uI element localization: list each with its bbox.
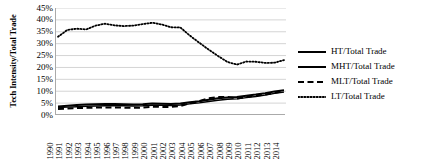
x-axis-tick-labels: 1990199119921993199419951996199719981999… [55, 116, 285, 159]
x-tick-label: 1996 [102, 142, 111, 159]
y-tick-label: 20% [37, 63, 54, 72]
y-tick-label: 15% [37, 75, 54, 84]
y-tick-label: 45% [37, 4, 54, 13]
chart-legend: HT/Total TradeMHT/Total TradeMLT/Total T… [298, 44, 429, 104]
y-tick-label: 40% [37, 15, 54, 24]
x-tick-label: 1993 [74, 142, 83, 159]
x-tick-label: 1999 [130, 142, 139, 159]
legend-swatch-mht [298, 62, 326, 72]
x-tick-label: 2000 [140, 142, 149, 159]
series-line-ht [58, 90, 284, 106]
legend-item-ht[interactable]: HT/Total Trade [298, 44, 429, 59]
x-tick-label: 1995 [93, 142, 102, 159]
x-tick-label: 1998 [121, 142, 130, 159]
x-tick-label: 2007 [206, 142, 215, 159]
y-tick-label: 10% [37, 87, 54, 96]
legend-label: MLT/Total Trade [331, 77, 393, 86]
plot-area [55, 8, 285, 115]
legend-item-mht[interactable]: MHT/Total Trade [298, 59, 429, 74]
x-tick-label: 2011 [243, 142, 252, 159]
legend-item-mlt[interactable]: MLT/Total Trade [298, 74, 429, 89]
x-tick-label: 2013 [262, 142, 271, 159]
legend-label: HT/Total Trade [331, 47, 387, 56]
x-tick-label: 2003 [168, 142, 177, 159]
legend-swatch-lt [298, 92, 326, 102]
x-tick-label: 2012 [253, 142, 262, 159]
x-tick-label: 1994 [83, 142, 92, 159]
x-tick-label: 2008 [215, 142, 224, 159]
legend-swatch-mlt [298, 77, 326, 87]
chart-container: Tech Intensity/Total Trade 45%40%35%30%2… [0, 0, 429, 159]
x-tick-label: 1991 [55, 142, 64, 159]
plot-svg [56, 8, 286, 115]
legend-label: MHT/Total Trade [331, 62, 395, 71]
x-tick-label: 2001 [149, 142, 158, 159]
legend-swatch-ht [298, 47, 326, 57]
legend-item-lt[interactable]: LT/Total Trade [298, 89, 429, 104]
y-tick-label: 35% [37, 27, 54, 36]
x-tick-label: 2014 [272, 142, 281, 159]
y-tick-label: 25% [37, 51, 54, 60]
y-tick-label: 5% [41, 99, 53, 108]
x-tick-label: 2010 [234, 142, 243, 159]
legend-label: LT/Total Trade [331, 92, 385, 101]
y-tick-label: 0% [41, 111, 53, 120]
y-tick-label: 30% [37, 39, 54, 48]
x-tick-label: 2006 [196, 142, 205, 159]
y-axis-tick-labels: 45%40%35%30%25%20%15%10%5%0% [17, 0, 53, 159]
x-tick-label: 2005 [187, 142, 196, 159]
